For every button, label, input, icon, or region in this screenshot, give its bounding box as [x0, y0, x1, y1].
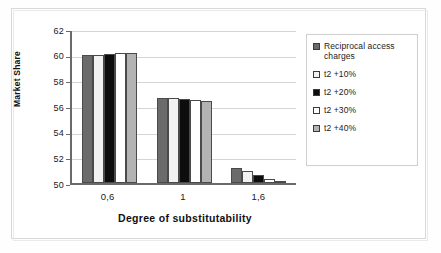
bar-group	[72, 31, 147, 183]
y-axis-tick-label: 50	[54, 181, 64, 190]
bar	[179, 99, 190, 183]
x-axis-tick-label: 0,6	[70, 191, 145, 205]
bars-layer	[72, 31, 296, 183]
bar	[115, 53, 126, 183]
legend-swatch-icon	[313, 89, 320, 96]
x-axis-tick-labels: 0,611,6	[70, 191, 296, 205]
bar	[231, 168, 242, 183]
y-axis-tick-label: 62	[54, 27, 64, 36]
bar	[168, 98, 179, 183]
legend-item: t2 +30%	[313, 105, 412, 115]
y-axis-tick-label: 60	[54, 52, 64, 61]
bar	[104, 54, 115, 183]
bar	[126, 53, 137, 183]
legend-item: t2 +20%	[313, 87, 412, 97]
y-axis-tick-mark	[66, 57, 70, 58]
legend-label: t2 +10%	[324, 69, 356, 79]
bar	[242, 171, 253, 183]
y-axis-tick-labels: 50525456586062	[38, 20, 68, 196]
legend-label: t2 +40%	[324, 123, 356, 133]
y-axis-tick-mark	[66, 134, 70, 135]
legend-item: t2 +40%	[313, 123, 412, 133]
x-axis-title: Degree of substitutability	[40, 212, 330, 224]
bar	[201, 101, 212, 183]
y-axis-title: Market Share	[12, 34, 22, 124]
legend: Reciprocal access chargest2 +10%t2 +20%t…	[306, 34, 418, 166]
y-axis-tick-mark	[66, 159, 70, 160]
bar	[264, 179, 275, 183]
chart-page: Market Share 50525456586062 0,611,6 Degr…	[0, 0, 441, 253]
bar	[275, 181, 286, 183]
bar	[82, 55, 93, 183]
y-axis-tick-label: 58	[54, 78, 64, 87]
legend-swatch-icon	[313, 125, 320, 132]
bar	[93, 55, 104, 183]
y-axis-tick-label: 54	[54, 129, 64, 138]
bar-group	[221, 31, 296, 183]
y-axis-tick-label: 56	[54, 104, 64, 113]
x-axis-tick-label: 1	[145, 191, 220, 205]
y-axis-tick-mark	[66, 82, 70, 83]
y-axis-tick-mark	[66, 185, 70, 186]
bar	[190, 100, 201, 183]
plot-area	[70, 31, 296, 185]
legend-swatch-icon	[313, 107, 320, 114]
legend-label: t2 +20%	[324, 87, 356, 97]
y-axis-tick-mark	[66, 108, 70, 109]
legend-item: t2 +10%	[313, 69, 412, 79]
legend-label: t2 +30%	[324, 105, 356, 115]
bar	[157, 98, 168, 183]
y-axis-tick-mark	[66, 31, 70, 32]
legend-label: Reciprocal access charges	[324, 41, 412, 61]
bar	[253, 175, 264, 183]
legend-swatch-icon	[313, 71, 320, 78]
legend-swatch-icon	[313, 43, 320, 50]
y-axis-tick-label: 52	[54, 155, 64, 164]
bar-group	[147, 31, 222, 183]
x-axis-tick-label: 1,6	[221, 191, 296, 205]
legend-item: Reciprocal access charges	[313, 41, 412, 61]
